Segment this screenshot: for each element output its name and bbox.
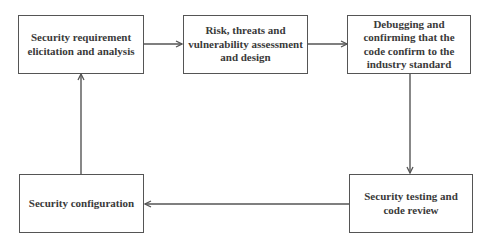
node-label: Debugging and confirming that the code c… [352, 18, 466, 72]
node-security-testing: Security testing and code review [349, 174, 473, 233]
node-label: Risk, threats and vulnerability assessme… [188, 24, 303, 65]
node-debugging: Debugging and confirming that the code c… [347, 15, 471, 74]
node-label: Security testing and code review [354, 190, 468, 217]
node-security-requirement: Security requirement elicitation and ana… [18, 15, 144, 74]
node-label: Security requirement elicitation and ana… [23, 31, 139, 58]
node-label: Security configuration [29, 197, 134, 211]
node-risk-assessment: Risk, threats and vulnerability assessme… [183, 15, 308, 74]
node-security-configuration: Security configuration [19, 174, 144, 233]
